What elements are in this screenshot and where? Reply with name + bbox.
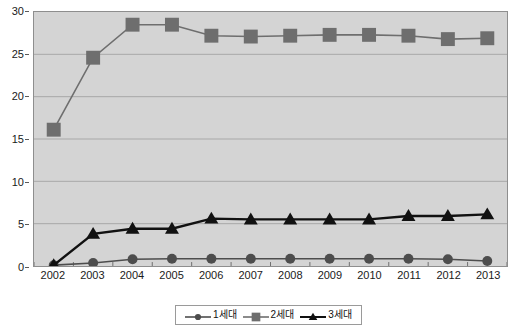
data-point-circle [128, 254, 138, 264]
series-line [54, 259, 488, 265]
x-tick-label: 2002 [41, 270, 65, 281]
y-tick-mark [25, 96, 29, 97]
data-point-circle [88, 258, 98, 266]
y-tick-mark [25, 267, 29, 268]
data-point-circle [443, 254, 453, 264]
legend-entry[interactable]: 1세대 [185, 309, 237, 321]
x-tick-label: 2010 [357, 270, 381, 281]
data-point-square [362, 28, 376, 42]
series-line [54, 214, 488, 265]
legend-entry[interactable]: 3세대 [300, 309, 352, 321]
series-circle [49, 254, 493, 266]
x-tick-label: 2011 [397, 270, 421, 281]
data-point-circle [364, 254, 374, 264]
y-tick-label: 20 [12, 91, 24, 102]
data-point-square [86, 51, 100, 65]
series-line [54, 25, 488, 130]
x-tick-label: 2009 [318, 270, 342, 281]
data-point-circle [167, 254, 177, 264]
legend-label: 3세대 [328, 310, 352, 320]
data-point-square [126, 18, 140, 32]
y-tick-mark [25, 182, 29, 183]
series-triangle [47, 207, 495, 266]
y-tick-label: 30 [12, 6, 24, 17]
data-point-square [480, 31, 494, 45]
y-tick-label: 5 [18, 219, 24, 230]
series-square [47, 18, 495, 137]
x-tick-label: 2004 [120, 270, 144, 281]
x-tick-label: 2012 [436, 270, 460, 281]
y-axis: 051015202530 [0, 11, 29, 267]
data-point-circle [285, 254, 295, 264]
legend-key-circle-icon [185, 309, 211, 321]
data-point-circle [325, 254, 335, 264]
data-point-square [244, 30, 258, 44]
data-point-square [47, 123, 61, 137]
y-tick-label: 0 [18, 262, 24, 273]
data-point-circle [206, 254, 216, 264]
data-point-circle [195, 314, 201, 320]
x-axis: 2002200320042005200620072008200920102011… [33, 270, 508, 286]
plot-area [33, 11, 508, 267]
legend-entry[interactable]: 2세대 [243, 309, 295, 321]
y-tick-label: 15 [12, 134, 24, 145]
data-point-square [251, 313, 260, 322]
y-tick-label: 25 [12, 48, 24, 59]
legend-label: 1세대 [213, 310, 237, 320]
x-tick-label: 2005 [159, 270, 183, 281]
line-chart: 051015202530 200220032004200520062007200… [0, 0, 524, 332]
y-tick-mark [25, 224, 29, 225]
legend-key-square-icon [243, 309, 269, 321]
legend-key-triangle-icon [300, 309, 326, 321]
x-tick-label: 2003 [80, 270, 104, 281]
x-tick-label: 2008 [278, 270, 302, 281]
x-tick-label: 2006 [199, 270, 223, 281]
data-point-circle [403, 254, 413, 264]
data-point-square [401, 29, 415, 43]
data-point-circle [246, 254, 256, 264]
y-tick-mark [25, 11, 29, 12]
data-point-circle [482, 256, 492, 266]
y-tick-mark [25, 54, 29, 55]
data-point-square [441, 32, 455, 46]
x-tick-label: 2013 [476, 270, 500, 281]
data-point-square [165, 18, 179, 32]
y-tick-mark [25, 139, 29, 140]
data-point-square [283, 29, 297, 43]
series-layer [34, 12, 507, 266]
x-tick-label: 2007 [238, 270, 262, 281]
chart-legend: 1세대2세대3세대 [175, 305, 362, 325]
data-point-square [323, 28, 337, 42]
data-point-square [204, 29, 218, 43]
y-tick-label: 10 [12, 176, 24, 187]
legend-label: 2세대 [271, 310, 295, 320]
